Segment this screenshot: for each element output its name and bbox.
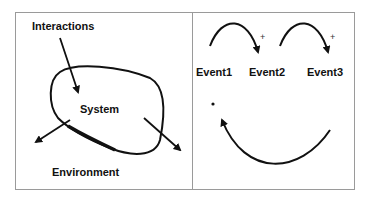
- event1-label: Event1: [196, 66, 232, 78]
- environment-label: Environment: [52, 166, 119, 178]
- return-arc: [222, 120, 330, 164]
- plus-mark-2: +: [330, 32, 335, 42]
- interactions-arrow: [60, 38, 78, 92]
- event2-to-event3-arc: [280, 23, 328, 52]
- system-label: System: [80, 103, 119, 115]
- event1-to-event2-arc: [210, 23, 258, 52]
- event2-label: Event2: [249, 66, 285, 78]
- interactions-label: Interactions: [32, 20, 94, 32]
- start-dot: [211, 102, 214, 105]
- system-boundary-thick: [68, 126, 115, 150]
- event3-label: Event3: [307, 66, 343, 78]
- plus-mark-1: +: [260, 32, 265, 42]
- outflow-arrow-left: [36, 120, 70, 142]
